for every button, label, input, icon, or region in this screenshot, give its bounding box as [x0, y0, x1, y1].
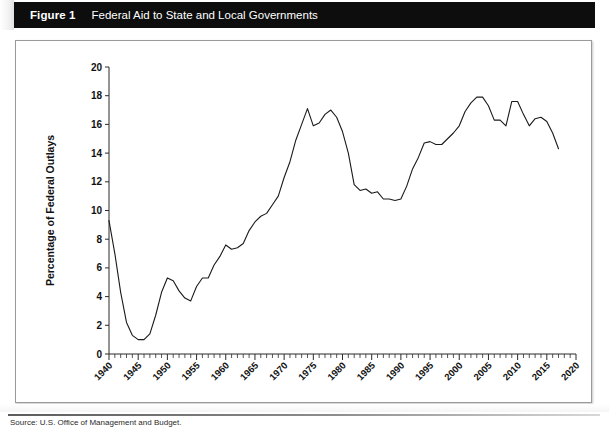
- figure-title: Federal Aid to State and Local Governmen…: [92, 9, 318, 21]
- y-tick-label: 20: [91, 62, 103, 73]
- x-tick-label: 1955: [179, 359, 202, 382]
- y-tick-label: 8: [96, 234, 102, 245]
- y-tick-label: 12: [91, 176, 103, 187]
- x-tick-label: 1960: [208, 360, 231, 383]
- y-tick-label: 0: [96, 349, 102, 360]
- figure-banner: Figure 1 Federal Aid to State and Local …: [14, 2, 595, 28]
- x-tick-label: 1985: [354, 359, 377, 382]
- chart-frame: 0246810121416182019401945195019551960196…: [15, 40, 592, 403]
- y-axis-title: Percentage of Federal Outlays: [44, 135, 56, 286]
- y-tick-label: 18: [91, 90, 103, 101]
- y-tick-label: 6: [96, 262, 102, 273]
- x-tick-label: 1980: [325, 360, 348, 383]
- y-tick-label: 4: [96, 291, 102, 302]
- page-edge-shading: [0, 0, 14, 30]
- x-tick-label: 1965: [238, 359, 261, 382]
- x-tick-label: 1995: [413, 359, 436, 382]
- x-tick-label: 1990: [384, 360, 407, 383]
- x-tick-label: 1970: [267, 360, 290, 383]
- x-tick-label: 1945: [121, 359, 144, 382]
- y-tick-label: 16: [91, 119, 103, 130]
- data-series-line: [109, 97, 558, 340]
- y-tick-label: 2: [96, 320, 102, 331]
- x-tick-label: 2000: [442, 360, 465, 383]
- x-tick-label: 2010: [500, 360, 523, 383]
- y-tick-label: 14: [91, 148, 103, 159]
- x-tick-label: 2005: [471, 359, 494, 382]
- source-note: Source: U.S. Office of Management and Bu…: [10, 418, 410, 427]
- page-shading-bottom: [0, 404, 609, 412]
- x-tick-label: 1950: [150, 360, 173, 383]
- y-tick-label: 10: [91, 205, 103, 216]
- x-tick-label: 2015: [529, 359, 552, 382]
- figure-number: Figure 1: [30, 9, 76, 21]
- line-chart: 0246810121416182019401945195019551960196…: [16, 41, 593, 404]
- x-tick-label: 1975: [296, 359, 319, 382]
- x-tick-label: 1940: [92, 360, 115, 383]
- x-tick-label: 2020: [559, 360, 582, 383]
- source-divider: [8, 414, 600, 416]
